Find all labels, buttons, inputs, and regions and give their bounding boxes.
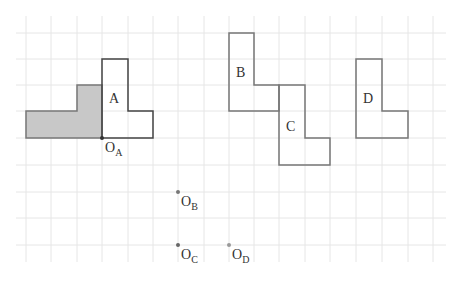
- origin-sub: D: [242, 254, 249, 265]
- origin-label-OC: OC: [181, 248, 198, 262]
- origin-dot-OD: [227, 243, 231, 247]
- origin-sub: B: [191, 201, 198, 212]
- label-C: C: [286, 120, 295, 134]
- origin-main: O: [181, 247, 191, 262]
- grid-lines: [16, 16, 446, 262]
- origin-label-OD: OD: [232, 248, 249, 262]
- origin-label-OB: OB: [181, 195, 198, 209]
- origin-dot-OA: [100, 136, 104, 140]
- label-A: A: [109, 92, 119, 106]
- origin-main: O: [105, 140, 115, 155]
- origin-dot-OC: [176, 243, 180, 247]
- grid-diagram: [0, 0, 457, 288]
- origin-sub: C: [191, 254, 198, 265]
- origin-sub: A: [115, 147, 122, 158]
- origin-label-OA: OA: [105, 141, 122, 155]
- origin-main: O: [181, 194, 191, 209]
- shape-shaded: [26, 85, 102, 138]
- origin-main: O: [232, 247, 242, 262]
- label-D: D: [363, 92, 373, 106]
- label-B: B: [236, 66, 245, 80]
- origin-dot-OB: [176, 190, 180, 194]
- shapes: [26, 33, 408, 165]
